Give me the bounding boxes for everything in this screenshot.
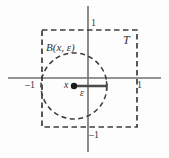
ball-label: B(x, ε) <box>46 42 75 53</box>
set-T-label: T <box>123 34 130 46</box>
epsilon-label: ε <box>80 88 84 98</box>
tick-label-bottom: –1 <box>89 130 99 140</box>
math-figure: B(x, ε) T x ε 1 –1 –1 1 <box>0 0 169 158</box>
center-point-marker <box>71 83 77 89</box>
tick-label-top: 1 <box>91 18 96 28</box>
tick-label-right: 1 <box>137 80 142 90</box>
point-x-label: x <box>64 80 68 90</box>
tick-label-left: –1 <box>25 80 35 90</box>
